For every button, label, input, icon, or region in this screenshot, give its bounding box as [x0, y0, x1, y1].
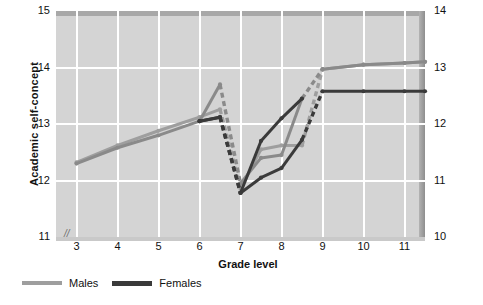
- x-axis-tick-label: 10: [351, 240, 377, 252]
- y-axis-right-tick-label: 13: [434, 61, 460, 73]
- y-axis-right-tick-label: 14: [434, 4, 460, 16]
- data-point-marker: [279, 153, 283, 157]
- data-point-marker: [402, 89, 406, 93]
- legend-item-males: Males: [22, 277, 98, 289]
- legend-label: Females: [159, 277, 201, 289]
- y-axis-left-tick-label: 11: [24, 230, 50, 242]
- y-axis-left-tick-label: 13: [24, 117, 50, 129]
- series-segment: [77, 148, 118, 164]
- data-point-marker: [259, 139, 263, 143]
- series-segment: [261, 168, 282, 178]
- series-segment-dashed: [220, 84, 241, 183]
- legend-swatch-icon: [22, 281, 62, 285]
- series-segment: [200, 84, 221, 121]
- x-axis-tick-label: 7: [228, 240, 254, 252]
- data-point-marker: [361, 63, 365, 67]
- data-point-marker: [361, 89, 365, 93]
- y-axis-right-tick-label: 12: [434, 117, 460, 129]
- data-point-marker: [320, 89, 324, 93]
- data-point-marker: [218, 107, 222, 111]
- data-point-marker: [300, 96, 304, 100]
- data-point-marker: [279, 166, 283, 170]
- chart-legend: MalesFemales: [22, 277, 202, 289]
- data-point-marker: [156, 133, 160, 137]
- data-point-marker: [300, 138, 304, 142]
- x-axis-tick-label: 11: [392, 240, 418, 252]
- series-segment: [405, 62, 426, 63]
- x-axis-tick-label: 4: [105, 240, 131, 252]
- series-segment: [364, 63, 405, 65]
- data-point-marker: [402, 61, 406, 65]
- data-point-marker: [218, 115, 222, 119]
- data-point-marker: [320, 67, 324, 71]
- data-point-marker: [238, 191, 242, 195]
- data-point-marker: [74, 161, 78, 165]
- y-axis-right-tick-label: 10: [434, 230, 460, 242]
- data-point-marker: [156, 129, 160, 133]
- data-point-marker: [279, 116, 283, 120]
- legend-item-females: Females: [112, 277, 201, 289]
- y-axis-left-tick-label: 12: [24, 174, 50, 186]
- x-axis-title: Grade level: [178, 258, 318, 270]
- series-segment-dashed: [302, 69, 323, 145]
- data-point-marker: [259, 156, 263, 160]
- x-axis-tick-label: 3: [64, 240, 90, 252]
- data-point-marker: [423, 89, 427, 93]
- y-axis-left-tick-label: 14: [24, 61, 50, 73]
- series-segment: [261, 155, 282, 158]
- legend-swatch-icon: [112, 281, 152, 286]
- chart-figure: Academic self-concept 1514131211 // 1413…: [0, 0, 483, 305]
- data-point-marker: [218, 82, 222, 86]
- data-point-marker: [423, 60, 427, 64]
- axis-break-mark: //: [64, 228, 70, 239]
- series-segment: [261, 118, 282, 141]
- data-point-marker: [259, 176, 263, 180]
- series-segment: [261, 145, 282, 149]
- series-segment: [323, 65, 364, 70]
- data-point-marker: [197, 119, 201, 123]
- x-axis-tick-label: 9: [310, 240, 336, 252]
- y-axis-left-tick-label: 15: [24, 4, 50, 16]
- data-point-marker: [115, 146, 119, 150]
- x-axis-tick-label: 8: [269, 240, 295, 252]
- x-axis-tick-label: 5: [146, 240, 172, 252]
- y-axis-right-tick-label: 11: [434, 174, 460, 186]
- legend-label: Males: [69, 277, 98, 289]
- x-axis-tick-label: 6: [187, 240, 213, 252]
